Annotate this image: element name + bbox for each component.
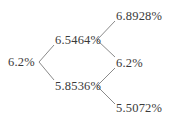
node-up: 6.5464% <box>55 34 101 47</box>
node-down-down: 5.5072% <box>116 102 162 115</box>
node-up-up: 6.8928% <box>116 10 162 23</box>
node-up-down: 6.2% <box>116 57 143 70</box>
node-down: 5.8536% <box>55 80 101 93</box>
binomial-tree-diagram: 6.2% 6.5464% 5.8536% 6.8928% 6.2% 5.5072… <box>0 0 169 119</box>
node-root: 6.2% <box>8 56 35 69</box>
edge-root-up <box>39 45 54 62</box>
edge-root-down <box>39 62 54 80</box>
